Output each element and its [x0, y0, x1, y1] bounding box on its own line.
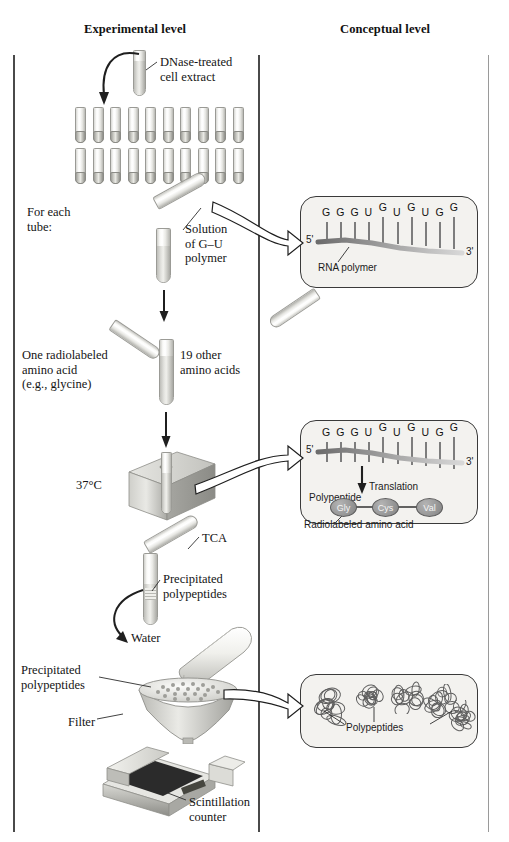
tube-rack	[75, 107, 255, 185]
panel1-caption: RNA polymer	[318, 262, 377, 273]
label-precipitated-1: Precipitated polypeptides	[163, 572, 227, 601]
label-tca: TCA	[202, 531, 227, 546]
rna-base-label: G	[322, 206, 330, 218]
rack-tube	[215, 148, 226, 184]
rack-tube	[128, 148, 139, 184]
rack-tube	[198, 107, 209, 143]
label-for-each-tube: For each tube:	[27, 205, 70, 234]
rna-base-stem	[368, 222, 370, 242]
polypeptide-blob	[352, 682, 384, 710]
rack-tube	[163, 107, 174, 143]
panel1-five-prime: 5'	[306, 234, 313, 245]
label-precipitated-2: Precipitated polypeptides	[21, 663, 85, 692]
rack-tube	[215, 107, 226, 143]
panel1-three-prime: 3'	[466, 246, 473, 257]
rna-base-label: G	[336, 206, 344, 218]
divider-left	[13, 55, 15, 832]
rack-tube	[93, 148, 104, 184]
rna-base-stem	[453, 217, 455, 249]
rna-base-stem	[397, 222, 399, 244]
rna-sequence-panel1: GGGUGUGUGG	[300, 196, 478, 288]
residue-node: Gly	[330, 498, 357, 517]
rack-tube	[163, 148, 174, 184]
mixing-tube	[159, 339, 174, 405]
filter-funnel	[133, 676, 243, 744]
panel3-caption: Polypeptides	[346, 722, 403, 733]
rack-tube	[145, 148, 156, 184]
other-aa-tube	[267, 288, 321, 330]
rack-tube	[75, 107, 86, 143]
rack-tube	[110, 148, 121, 184]
rack-tube	[110, 107, 121, 143]
residue-row: GlyCysVal	[300, 420, 478, 524]
rack-tube	[233, 107, 244, 143]
label-incubation-temp: 37°C	[76, 478, 102, 493]
rack-tube	[93, 107, 104, 143]
rna-base-label: G	[407, 201, 415, 213]
rna-base-label: U	[393, 206, 401, 218]
rack-tube	[75, 148, 86, 184]
rna-base-stem	[340, 222, 342, 242]
panel2-caption: Radiolabeled amino acid	[304, 519, 414, 530]
divider-right	[488, 55, 489, 832]
rna-base-label: U	[421, 206, 429, 218]
rna-base-stem	[411, 217, 413, 245]
rack-tube	[180, 107, 191, 143]
label-other-aa: 19 other amino acids	[180, 348, 240, 377]
polypeptide-blobs	[300, 674, 478, 748]
rna-base-label: G	[450, 201, 458, 213]
label-gu-polymer: Solution of G–U polymer	[185, 222, 227, 266]
figure-canvas: Experimental level Conceptual level	[0, 0, 509, 842]
rna-base-stem	[354, 222, 356, 242]
cell-extract-tube	[133, 50, 146, 96]
rna-base-stem	[439, 222, 441, 248]
rna-base-label: G	[350, 206, 358, 218]
rna-base-label: G	[379, 201, 387, 213]
residue-node: Val	[416, 498, 443, 517]
rna-base-stem	[425, 222, 427, 246]
label-filter: Filter	[68, 715, 95, 730]
rna-base-stem	[326, 222, 328, 242]
divider-middle	[258, 55, 260, 832]
polypeptide-blob	[446, 700, 480, 734]
incubated-tube	[161, 452, 172, 514]
precipitate-band	[145, 588, 156, 600]
rna-base-label: G	[436, 206, 444, 218]
column-title-conceptual: Conceptual level	[340, 22, 430, 37]
rack-tube	[233, 148, 244, 184]
label-radiolabeled-aa: One radiolabeled amino acid (e.g., glyci…	[22, 348, 108, 392]
column-title-experimental: Experimental level	[84, 22, 186, 37]
label-scintillation-counter: Scintillation counter	[189, 795, 250, 824]
rna-base-stem	[382, 217, 384, 243]
rna-base-label: U	[365, 206, 373, 218]
label-water: Water	[131, 631, 161, 646]
rack-tube	[145, 107, 156, 143]
rack-tube	[128, 107, 139, 143]
label-cell-extract: DNase-treated cell extract	[160, 55, 232, 84]
radiolabeled-aa-tube	[108, 319, 162, 361]
polypeptide-blob	[388, 680, 426, 714]
residue-node: Cys	[372, 498, 399, 517]
reaction-tube-gu	[156, 228, 171, 283]
